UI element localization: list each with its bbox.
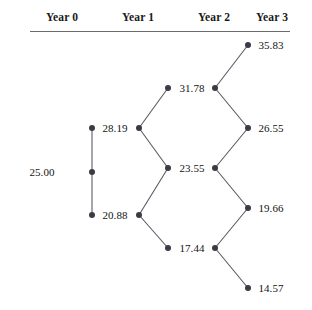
tree-node-value: 17.44 [179, 242, 204, 254]
tree-edge [139, 168, 168, 215]
tree-node-dot[interactable] [245, 205, 251, 211]
tree-node-value: 19.66 [258, 202, 283, 214]
tree-node-value: 14.57 [258, 282, 283, 294]
tree-node-value: 31.78 [179, 82, 204, 94]
tree-node-dot[interactable] [165, 165, 171, 171]
tree-node-value: 20.88 [102, 209, 127, 221]
tree-edge [215, 248, 248, 288]
tree-edge [215, 128, 248, 168]
tree-node-dot[interactable] [245, 42, 251, 48]
tree-edge [139, 215, 168, 248]
tree-node-dot[interactable] [89, 125, 95, 131]
tree-edge [215, 208, 248, 248]
tree-canvas: 25.0028.1920.8831.7823.5517.4435.8326.55… [0, 0, 312, 310]
tree-node-value: 25.00 [29, 166, 54, 178]
tree-node-dot[interactable] [165, 85, 171, 91]
binomial-tree-diagram: Year 0Year 1Year 2Year 3 25.0028.1920.88… [0, 0, 312, 310]
tree-node-dot[interactable] [136, 212, 142, 218]
tree-edge [215, 88, 248, 128]
tree-node-dot[interactable] [89, 212, 95, 218]
tree-node-dot[interactable] [245, 285, 251, 291]
tree-node-value: 26.55 [258, 122, 283, 134]
tree-edge [139, 128, 168, 168]
tree-node-dot[interactable] [212, 85, 218, 91]
tree-node-dot[interactable] [165, 245, 171, 251]
tree-node-dot[interactable] [245, 125, 251, 131]
tree-edge [215, 168, 248, 208]
tree-node-dot[interactable] [89, 169, 95, 175]
tree-node-value: 23.55 [179, 162, 204, 174]
tree-edge [139, 88, 168, 128]
tree-node-value: 28.19 [102, 122, 127, 134]
tree-node-value: 35.83 [258, 39, 283, 51]
tree-edge [215, 45, 248, 88]
tree-node-dot[interactable] [136, 125, 142, 131]
tree-node-dot[interactable] [212, 245, 218, 251]
tree-node-dot[interactable] [212, 165, 218, 171]
